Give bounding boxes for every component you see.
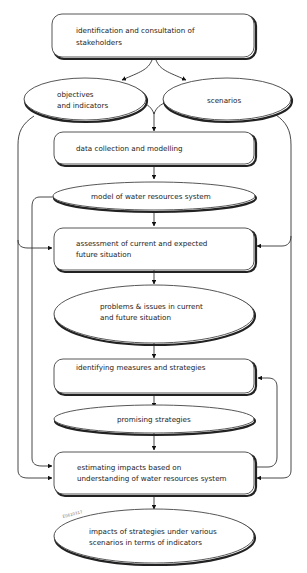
node-scenarios-line-1: scenarios bbox=[207, 96, 241, 105]
node-assessment-line-2: future situation bbox=[76, 250, 131, 259]
node-assessment-line-1: assessment of current and expected bbox=[76, 239, 207, 248]
flow-diagram: identification and consultation of stake… bbox=[0, 0, 307, 573]
node-stakeholders-line-2: stakeholders bbox=[76, 38, 122, 47]
node-impacts-line-2: scenarios in terms of indicators bbox=[89, 538, 202, 547]
node-problems-line-1: problems & issues in current bbox=[100, 302, 203, 311]
node-data-collection-line-1: data collection and modelling bbox=[76, 144, 183, 153]
edge-objectives-assessment bbox=[18, 116, 52, 248]
edge-scenarios-estimating bbox=[257, 236, 291, 478]
node-stakeholders-line-1: identification and consultation of bbox=[76, 26, 195, 35]
node-objectives: objectives and indicators bbox=[24, 78, 147, 122]
node-data-collection: data collection and modelling bbox=[54, 132, 256, 166]
node-impacts-line-1: impacts of strategies under various bbox=[89, 527, 217, 536]
node-estimating-line-2: understanding of water resources system bbox=[77, 474, 227, 483]
node-identifying-line-1: identifying measures and strategies bbox=[76, 363, 206, 372]
edge-scenarios-assessment bbox=[257, 115, 291, 246]
node-model-line-1: model of water resources system bbox=[91, 192, 211, 201]
node-stakeholders: identification and consultation of stake… bbox=[52, 14, 256, 59]
edge-estimating-identifying bbox=[257, 378, 277, 467]
node-model: model of water resources system bbox=[53, 182, 256, 212]
edge-model-estimating bbox=[32, 197, 54, 466]
node-scenarios: scenarios bbox=[163, 78, 292, 122]
node-estimating-line-1: estimating impacts based on bbox=[77, 463, 181, 472]
node-promising-line-1: promising strategies bbox=[117, 415, 191, 424]
node-objectives-line-1: objectives bbox=[57, 90, 94, 99]
node-problems: problems & issues in current and future … bbox=[54, 285, 255, 345]
node-assessment: assessment of current and expected futur… bbox=[54, 228, 256, 272]
node-problems-line-2: and future situation bbox=[100, 313, 171, 322]
connectors bbox=[18, 60, 291, 509]
node-impacts: impacts of strategies under various scen… bbox=[54, 509, 255, 565]
edge-objectives-estimating bbox=[18, 240, 52, 478]
node-promising: promising strategies bbox=[54, 405, 255, 435]
node-objectives-line-2: and indicators bbox=[57, 101, 108, 110]
edge-stakeholders-objectives bbox=[122, 60, 152, 80]
node-estimating: estimating impacts based on understandin… bbox=[54, 452, 256, 496]
edge-stakeholders-scenarios bbox=[156, 60, 186, 80]
node-identifying: identifying measures and strategies bbox=[54, 359, 256, 395]
